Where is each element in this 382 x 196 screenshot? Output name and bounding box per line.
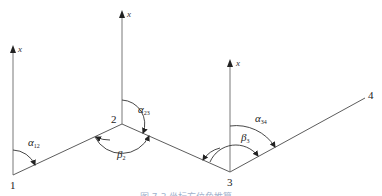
traverse-diagram: x x x α12 α23 α34 β2 <box>0 0 382 196</box>
arc-beta-2-start <box>96 137 110 140</box>
traverse-lines <box>13 98 365 175</box>
north-axes: x x x <box>10 9 240 175</box>
arrow-up-icon <box>10 45 16 53</box>
label-alpha-23: α23 <box>138 103 150 116</box>
point-label-1: 1 <box>10 179 16 191</box>
point-label-2: 2 <box>111 113 117 125</box>
segment-1-2 <box>13 124 122 175</box>
figure-caption: 图 7-3 坐标方位角推算 <box>140 191 270 196</box>
x-axis-label-2: x <box>126 9 131 19</box>
label-beta-2: β2 <box>116 148 125 161</box>
x-axis-label-3: x <box>235 58 240 68</box>
point-labels: 1 2 3 4 <box>10 89 374 191</box>
label-beta-3: β3 <box>240 131 249 144</box>
point-label-4: 4 <box>368 89 374 101</box>
label-alpha-34: α34 <box>255 112 267 125</box>
x-axis-label-1: x <box>17 44 22 54</box>
segment-3-4 <box>230 98 365 172</box>
arc-alpha-12 <box>13 150 35 165</box>
arc-beta-3 <box>210 145 258 162</box>
arrow-up-icon <box>227 59 233 67</box>
arrow-up-icon <box>119 10 125 18</box>
angle-labels: α12 α23 α34 β2 β3 <box>28 103 267 161</box>
arc-alpha-34 <box>230 126 275 147</box>
point-label-3: 3 <box>227 176 233 188</box>
label-alpha-12: α12 <box>28 136 40 149</box>
